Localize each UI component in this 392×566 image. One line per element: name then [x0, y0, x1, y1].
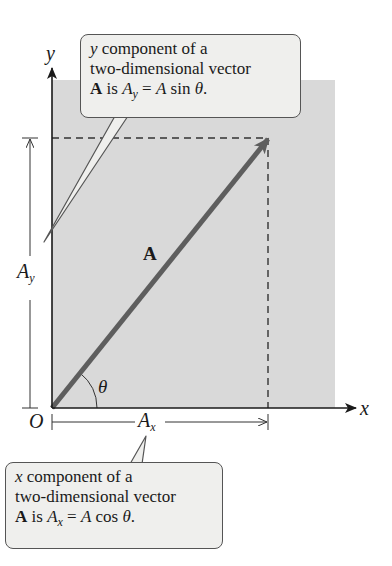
x-component-callout: x component of a two-dimensional vector …	[5, 462, 223, 549]
vector-a-label: A	[143, 245, 157, 263]
y-component-callout: y component of a two-dimensional vector …	[80, 34, 301, 118]
y-callout-line2: two-dimensional vector	[90, 59, 292, 79]
x-callout-line3: A is Ax = A cos θ.	[15, 507, 214, 532]
ay-component-label: Ay	[17, 262, 35, 287]
x-callout-line2: two-dimensional vector	[15, 487, 214, 507]
angle-theta-label: θ	[98, 378, 107, 396]
ax-component-label: Ax	[138, 411, 156, 436]
y-callout-line3: A is Ay = A sin θ.	[90, 79, 292, 104]
origin-label: O	[29, 412, 43, 430]
y-callout-line1: y component of a	[90, 39, 292, 59]
x-callout-line1: x component of a	[15, 467, 214, 487]
x-axis-label: x	[360, 399, 369, 417]
y-axis-label: y	[46, 44, 55, 62]
x-callout-pointer	[130, 436, 146, 464]
